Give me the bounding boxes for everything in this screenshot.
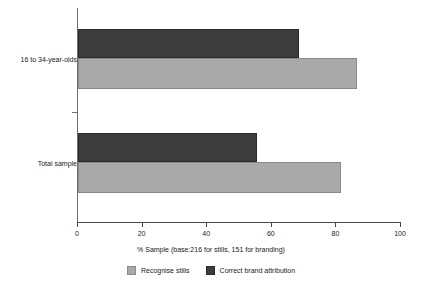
value-axis-tick-80 (335, 222, 336, 227)
category-label-16to34: 16 to 34-year-olds (21, 55, 77, 64)
value-axis-tick-60 (271, 222, 272, 227)
value-axis-tick-0 (77, 222, 78, 227)
category-axis-tick (72, 112, 77, 113)
x-axis-title: % Sample (base:216 for stills, 151 for b… (0, 245, 422, 255)
value-axis-tick-20 (142, 222, 143, 227)
legend-entry-recognise-stills: Recognise stills (127, 266, 190, 275)
bar-total-sample-recognise-stills (78, 162, 341, 193)
legend-label-correct-brand-attribution: Correct brand attribution (220, 266, 295, 275)
legend-entry-correct-brand-attribution: Correct brand attribution (206, 266, 295, 275)
value-axis-tick-label-80: 80 (331, 229, 339, 238)
value-axis-tick-label-60: 60 (267, 229, 275, 238)
bar-chart: 020406080100 16 to 34-year-olds Total sa… (0, 0, 422, 292)
bar-16to34-correct-brand-attribution (78, 29, 299, 58)
value-axis-tick-label-100: 100 (394, 229, 406, 238)
legend-label-recognise-stills: Recognise stills (141, 266, 190, 275)
value-axis-line (77, 222, 401, 223)
value-axis-tick-40 (206, 222, 207, 227)
value-axis-tick-label-40: 40 (202, 229, 210, 238)
dark-gray-swatch-icon (206, 266, 215, 275)
value-axis-tick-100 (400, 222, 401, 227)
bar-16to34-recognise-stills (78, 58, 357, 89)
bar-total-sample-correct-brand-attribution (78, 133, 257, 162)
light-gray-swatch-icon (127, 266, 136, 275)
chart-legend: Recognise stills Correct brand attributi… (0, 266, 422, 275)
value-axis-tick-label-0: 0 (75, 229, 79, 238)
category-label-total-sample: Total sample (38, 159, 77, 168)
value-axis-tick-label-20: 20 (138, 229, 146, 238)
